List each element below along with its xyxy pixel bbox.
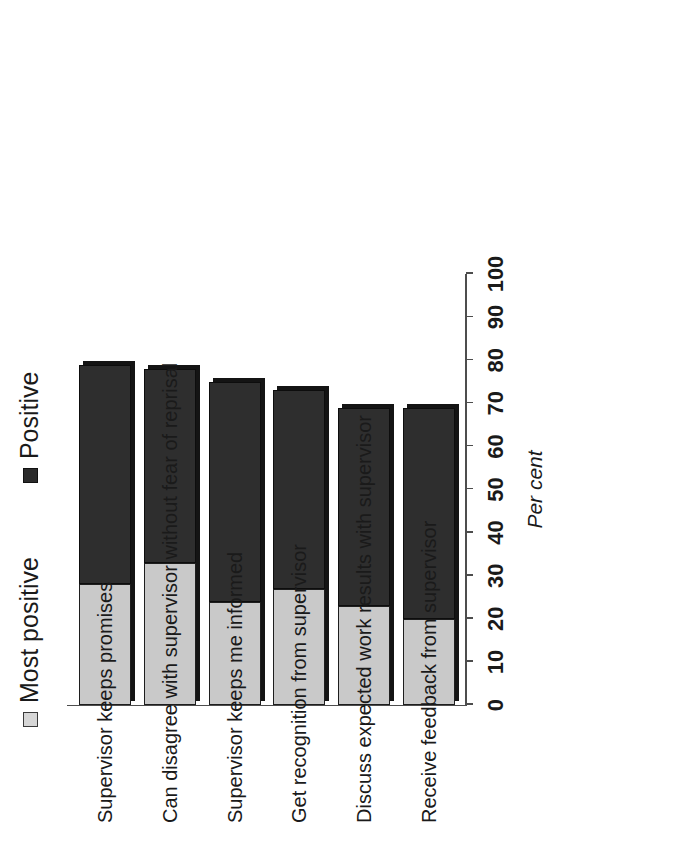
- category-label: Supervisor keeps me informed: [224, 719, 244, 823]
- axis-tick: [466, 402, 473, 404]
- axis-tick-label: 30: [485, 563, 507, 587]
- legend-entry-positive[interactable]: Positive: [17, 372, 42, 484]
- axis-tick: [466, 488, 473, 490]
- legend-label-most-positive: Most positive: [17, 557, 42, 703]
- axis-tick: [466, 617, 473, 619]
- axis-tick-label: 90: [485, 305, 507, 329]
- axis-tick: [466, 574, 473, 576]
- category-label: Supervisor keeps promises: [95, 719, 115, 823]
- axis-tick-label: 40: [485, 520, 507, 544]
- axis-tick: [466, 272, 473, 274]
- axis-tick: [466, 660, 473, 662]
- stacked-bar-chart: Most positive Positive 01020304050607080…: [11, 23, 671, 823]
- axis-tick: [466, 445, 473, 447]
- category-label: Discuss expected work results with super…: [354, 719, 374, 823]
- page-canvas: Most positive Positive 01020304050607080…: [0, 0, 681, 846]
- axis-tick-label: 60: [485, 434, 507, 458]
- axis-tick-label: 70: [485, 391, 507, 415]
- value-axis-ticks: 0102030405060708090100: [465, 274, 467, 705]
- dark-square-swatch-icon: [23, 468, 38, 483]
- axis-tick-label: 100: [485, 256, 507, 293]
- category-label: Get recognition from supervisor: [289, 719, 309, 823]
- axis-tick-label: 0: [485, 699, 507, 711]
- axis-tick-label: 20: [485, 607, 507, 631]
- value-axis-line: 0102030405060708090100: [465, 274, 467, 705]
- category-label: Can disagree with supervisor without fea…: [160, 719, 180, 823]
- axis-tick-label: 50: [485, 477, 507, 501]
- bars-layer: [67, 23, 467, 823]
- axis-tick-label: 10: [485, 650, 507, 674]
- axis-tick: [466, 703, 473, 705]
- legend-label-positive: Positive: [17, 372, 42, 460]
- light-square-swatch-icon: [23, 712, 38, 727]
- axis-tick-label: 80: [485, 348, 507, 372]
- axis-tick: [466, 531, 473, 533]
- category-label: Receive feedback from supervisor: [418, 719, 438, 823]
- value-axis-title: Per cent: [524, 274, 545, 705]
- axis-tick: [466, 359, 473, 361]
- plot-area: 0102030405060708090100 Per cent Supervis…: [67, 23, 467, 823]
- axis-tick: [466, 316, 473, 318]
- bar-segment-positive[interactable]: [79, 365, 131, 585]
- figure-rotation-wrapper: Most positive Positive 01020304050607080…: [11, 23, 671, 823]
- legend-entry-most-positive[interactable]: Most positive: [17, 557, 42, 727]
- chart-legend: Most positive Positive: [17, 372, 42, 727]
